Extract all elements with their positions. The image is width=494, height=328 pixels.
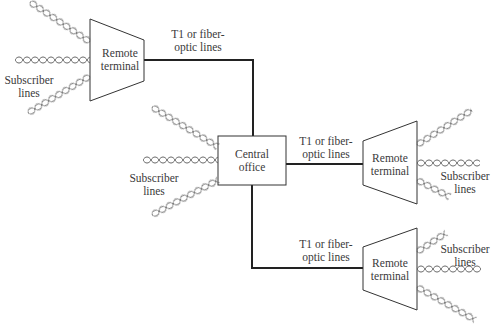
label-line: T1 or fiber- <box>158 28 238 41</box>
twisted-pair-icon <box>415 107 474 149</box>
label-line: terminal <box>365 165 415 178</box>
label-line: T1 or fiber- <box>293 135 359 148</box>
subscriber-label-middle-right: Subscriber lines <box>438 170 492 196</box>
trunk-label-middle: T1 or fiber- optic lines <box>293 135 359 161</box>
label-line: T1 or fiber- <box>293 238 359 251</box>
label-line: Remote <box>365 152 415 165</box>
label-line: Remote <box>96 47 144 60</box>
label-line: lines <box>438 183 492 196</box>
remote-terminal-middle-right-label: Remote terminal <box>365 152 415 178</box>
label-line: lines <box>2 87 56 100</box>
label-line: terminal <box>365 270 415 283</box>
label-line: Subscriber <box>438 243 492 256</box>
subscriber-label-bottom-right: Subscriber lines <box>438 243 492 269</box>
twisted-pair-icon <box>150 104 220 151</box>
remote-terminal-top-left-label: Remote terminal <box>96 47 144 73</box>
subscriber-label-top-left: Subscriber lines <box>2 74 56 100</box>
label-line: Remote <box>365 257 415 270</box>
label-line: optic lines <box>293 251 359 264</box>
label-line: lines <box>127 185 181 198</box>
trunk-label-bottom: T1 or fiber- optic lines <box>293 238 359 264</box>
label-line: Subscriber <box>2 74 56 87</box>
label-line: Subscriber <box>127 172 181 185</box>
trunk-label-top: T1 or fiber- optic lines <box>158 28 238 54</box>
label-line: office <box>218 161 286 174</box>
twisted-pair-icon <box>417 159 480 167</box>
twisted-pair-icon <box>143 156 218 164</box>
label-line: optic lines <box>158 41 238 54</box>
trunk-line-top <box>144 60 253 136</box>
twisted-pair-icon <box>15 56 90 64</box>
label-line: optic lines <box>293 148 359 161</box>
label-line: terminal <box>96 60 144 73</box>
twisted-pair-icon <box>28 0 92 45</box>
twisted-pair-icon <box>415 284 477 324</box>
subscriber-label-central: Subscriber lines <box>127 172 181 198</box>
remote-terminal-bottom-right-label: Remote terminal <box>365 257 415 283</box>
label-line: lines <box>438 256 492 269</box>
label-line: Central <box>218 148 286 161</box>
label-line: Subscriber <box>438 170 492 183</box>
central-office-label: Central office <box>218 148 286 174</box>
